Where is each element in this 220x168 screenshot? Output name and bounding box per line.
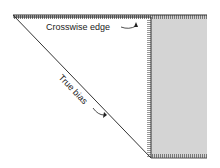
bias-arrow-icon	[93, 108, 104, 115]
fold-ticks	[147, 19, 151, 157]
bias-fold-diagram: Crosswise edge True bias	[0, 0, 220, 168]
crosswise-label: Crosswise edge	[46, 22, 110, 32]
bottom-edge-ticks	[151, 154, 207, 158]
crosswise-arrow-icon	[121, 26, 136, 28]
fabric-region	[151, 15, 207, 158]
crosswise-arrowhead-icon	[134, 22, 138, 27]
bias-line	[13, 15, 151, 158]
bias-arrowhead-icon	[103, 112, 107, 118]
